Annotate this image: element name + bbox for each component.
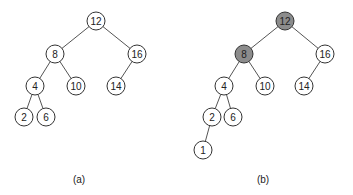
node-label: 12 xyxy=(90,16,102,27)
node-label: 2 xyxy=(209,112,215,123)
tree-node-10: 10 xyxy=(256,77,274,95)
tree-node-6: 6 xyxy=(37,108,55,126)
node-label: 16 xyxy=(319,49,331,60)
tree-node-6: 6 xyxy=(224,108,242,126)
tree-edge xyxy=(215,94,221,108)
node-label: 10 xyxy=(259,81,271,92)
node-label: 2 xyxy=(21,112,27,123)
tree-node-16: 16 xyxy=(128,45,146,63)
tree-node-14: 14 xyxy=(107,77,125,95)
tree-node-8: 8 xyxy=(46,45,64,63)
tree-node-2: 2 xyxy=(203,108,221,126)
tree-edge xyxy=(292,27,318,49)
tree-edge xyxy=(40,62,50,79)
node-label: 4 xyxy=(221,81,227,92)
tree-edge xyxy=(103,27,130,49)
tree-edge xyxy=(249,62,260,79)
node-label: 8 xyxy=(241,49,247,60)
tree-node-10: 10 xyxy=(67,77,85,95)
node-label: 1 xyxy=(200,145,206,156)
tree-node-12: 12 xyxy=(87,12,105,30)
node-label: 14 xyxy=(110,81,122,92)
tree-edge xyxy=(229,62,239,79)
tree-edge xyxy=(251,27,278,49)
tree-node-1: 1 xyxy=(194,141,212,159)
tree-node-14: 14 xyxy=(295,77,313,95)
node-label: 12 xyxy=(279,16,291,27)
node-label: 10 xyxy=(70,81,82,92)
node-label: 4 xyxy=(32,81,38,92)
node-label: 6 xyxy=(43,112,49,123)
tree-edge xyxy=(27,94,32,108)
tree-edge xyxy=(62,27,89,49)
tree-edge xyxy=(121,62,132,79)
tree-node-2: 2 xyxy=(15,108,33,126)
node-label: 6 xyxy=(230,112,236,123)
node-label: 14 xyxy=(298,81,310,92)
tree-node-16: 16 xyxy=(316,45,334,63)
tree-edge xyxy=(227,95,231,109)
tree-edge xyxy=(60,62,71,79)
binary-search-tree-diagram: 128164101426(a) 1281641014261(b) xyxy=(0,0,353,195)
tree-node-4: 4 xyxy=(215,77,233,95)
tree-b: 1281641014261(b) xyxy=(194,12,334,185)
tree-edge xyxy=(38,94,43,108)
node-label: 8 xyxy=(52,49,58,60)
tree-node-8: 8 xyxy=(235,45,253,63)
tree-caption: (a) xyxy=(73,174,85,185)
node-label: 16 xyxy=(131,49,143,60)
tree-node-4: 4 xyxy=(26,77,44,95)
tree-caption: (b) xyxy=(257,174,269,185)
tree-edge xyxy=(309,62,320,79)
tree-a: 128164101426(a) xyxy=(15,12,146,185)
tree-edge xyxy=(205,126,209,142)
tree-node-12: 12 xyxy=(276,12,294,30)
